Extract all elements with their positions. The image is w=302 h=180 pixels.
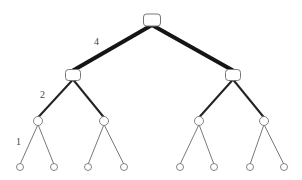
internal-node [195, 117, 204, 126]
edges-layer [20, 25, 284, 165]
tree-edge [73, 25, 152, 71]
tree-edge [264, 125, 284, 165]
leaf-node [211, 164, 218, 171]
leaf-node [51, 164, 58, 171]
leaf-node [17, 164, 24, 171]
edge-width-label: 2 [40, 89, 45, 100]
leaf-node [247, 164, 254, 171]
tree-edge [104, 125, 124, 165]
tree-edge [233, 80, 264, 118]
leaf-node [85, 164, 92, 171]
tree-edge [180, 125, 199, 165]
leaf-node [281, 164, 288, 171]
tree-edge [38, 125, 54, 165]
tree-edge [152, 25, 233, 71]
internal-node [34, 117, 43, 126]
tree-edge [88, 125, 104, 165]
root-node [144, 14, 161, 26]
internal-node [100, 117, 109, 126]
tree-edge [73, 80, 104, 118]
tree-edge [199, 125, 214, 165]
tree-edge [250, 125, 264, 165]
internal-node [260, 117, 269, 126]
edge-width-label: 4 [94, 36, 99, 47]
edge-width-label: 1 [16, 136, 21, 147]
leaf-node [121, 164, 128, 171]
fat-tree-diagram: 421 [0, 0, 302, 180]
leaf-node [177, 164, 184, 171]
internal-node [226, 70, 241, 81]
nodes-layer [17, 14, 288, 171]
tree-edge [199, 80, 233, 118]
tree-edge [20, 125, 38, 165]
edge-labels-layer: 421 [16, 36, 99, 147]
internal-node [66, 70, 81, 81]
